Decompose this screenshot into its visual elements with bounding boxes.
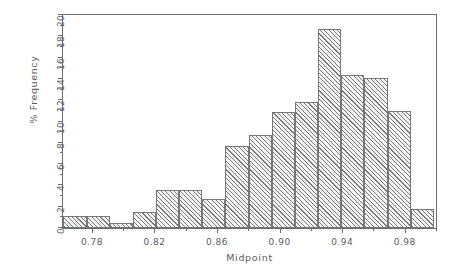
histogram-bar xyxy=(341,75,364,228)
x-axis-tick xyxy=(342,228,343,233)
x-axis-tick-label: 0.98 xyxy=(394,237,416,247)
histogram-bar xyxy=(133,212,156,228)
x-axis-minor-tick xyxy=(248,228,249,231)
x-axis-tick xyxy=(405,228,406,233)
histogram-bar xyxy=(225,146,248,228)
y-axis-minor-tick xyxy=(60,110,63,111)
x-axis-tick-label: 0.82 xyxy=(143,237,165,247)
y-axis-minor-tick xyxy=(60,67,63,68)
x-axis-tick-label: 0.86 xyxy=(206,237,228,247)
histogram-bar xyxy=(318,29,341,228)
x-axis-tick xyxy=(217,228,218,233)
bars-container xyxy=(63,15,436,228)
histogram-bar xyxy=(411,209,434,228)
y-axis-minor-tick xyxy=(60,195,63,196)
histogram-bar xyxy=(364,78,387,228)
histogram-bar xyxy=(110,223,133,228)
x-axis-tick-label: 0.78 xyxy=(81,237,103,247)
x-axis-minor-tick xyxy=(311,228,312,231)
x-axis-minor-tick xyxy=(373,228,374,231)
y-axis-minor-tick xyxy=(60,152,63,153)
y-axis-minor-tick xyxy=(60,46,63,47)
histogram-bar xyxy=(63,216,86,228)
y-axis-title: % Frequency xyxy=(28,35,39,145)
histogram-bar xyxy=(295,102,318,228)
histogram-bar xyxy=(156,190,179,228)
plot-area: 024681012141618200.780.820.860.900.940.9… xyxy=(62,14,437,229)
x-axis-minor-tick xyxy=(123,228,124,231)
x-axis-tick-label: 0.94 xyxy=(331,237,353,247)
histogram-bar xyxy=(87,216,110,228)
histogram-bar xyxy=(202,199,225,228)
x-axis-tick xyxy=(154,228,155,233)
histogram-bar xyxy=(179,190,202,228)
x-axis-title: Midpoint xyxy=(62,252,437,263)
x-axis-minor-tick xyxy=(186,228,187,231)
histogram-bar xyxy=(272,112,295,228)
y-axis-minor-tick xyxy=(60,174,63,175)
y-axis-minor-tick xyxy=(60,216,63,217)
histogram-bar xyxy=(249,135,272,228)
y-axis-minor-tick xyxy=(60,25,63,26)
x-axis-tick xyxy=(92,228,93,233)
y-axis-minor-tick xyxy=(60,89,63,90)
histogram-bar xyxy=(388,111,411,228)
y-axis-minor-tick xyxy=(60,131,63,132)
x-axis-tick xyxy=(280,228,281,233)
histogram-figure: % Frequency 024681012141618200.780.820.8… xyxy=(0,0,461,278)
x-axis-tick-label: 0.90 xyxy=(269,237,291,247)
x-axis-minor-tick xyxy=(436,228,437,231)
